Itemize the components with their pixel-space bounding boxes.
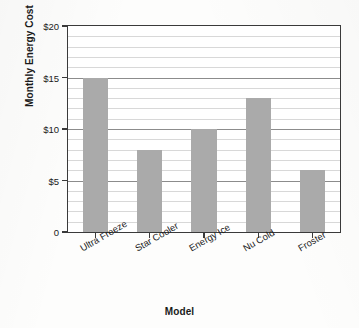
gridline-major	[68, 78, 340, 79]
y-axis-tick-label: 0	[54, 227, 59, 238]
gridline-minor	[68, 108, 340, 109]
bar	[191, 129, 216, 232]
bar	[300, 170, 325, 232]
bar	[83, 78, 108, 233]
y-axis-title: Monthly Energy Cost	[22, 0, 38, 144]
y-axis-tick	[62, 77, 68, 78]
y-axis-tick	[62, 231, 68, 232]
y-axis-tick	[62, 25, 68, 26]
y-axis-tick-label: $15	[43, 72, 59, 83]
y-axis-tick	[62, 128, 68, 129]
gridline-minor	[68, 119, 340, 120]
gridline-minor	[68, 67, 340, 68]
bar	[246, 98, 271, 232]
gridline-minor	[68, 98, 340, 99]
bar-chart-figure: Monthly Energy Cost 0$5$10$15$20 Ultra F…	[0, 0, 359, 328]
gridline-minor	[68, 47, 340, 48]
x-axis-title: Model	[0, 306, 359, 317]
gridline-minor	[68, 57, 340, 58]
y-axis-tick-label: $10	[43, 124, 59, 135]
gridline-minor	[68, 88, 340, 89]
bar	[137, 150, 162, 232]
y-axis-tick-label: $20	[43, 21, 59, 32]
y-axis-tick-label: $5	[48, 175, 59, 186]
y-axis-tick	[62, 180, 68, 181]
plot-area: 0$5$10$15$20	[67, 25, 341, 233]
gridline-minor	[68, 36, 340, 37]
